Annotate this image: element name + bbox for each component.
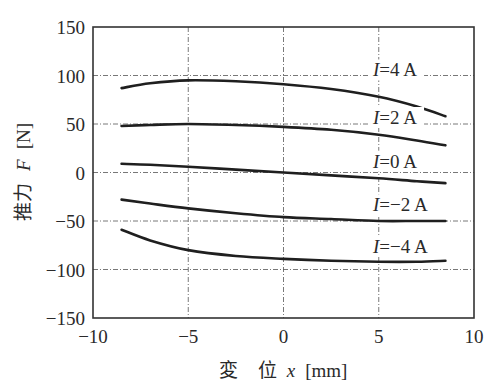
series-label: I=2 A: [372, 107, 417, 128]
force-displacement-chart: I=4 AI=2 AI=0 AI=−2 AI=−4 A 150100500−50…: [0, 0, 497, 388]
x-tick-label: −10: [78, 326, 108, 347]
y-axis-variable: F: [13, 159, 34, 172]
y-tick-label: 0: [76, 163, 86, 184]
y-axis-unit: [N]: [13, 123, 34, 149]
y-tick-label: 150: [57, 17, 86, 38]
x-tick-label: 5: [374, 326, 384, 347]
series-label: I=4 A: [372, 59, 417, 80]
x-axis-ticks: −10−50510: [78, 326, 483, 347]
x-axis-unit: [mm]: [305, 360, 347, 381]
y-tick-label: 50: [66, 114, 85, 135]
y-tick-label: −100: [46, 260, 85, 281]
x-tick-label: −5: [178, 326, 198, 347]
x-axis-title: 変 位 x [mm]: [219, 359, 348, 381]
x-axis-variable: x: [286, 360, 296, 381]
y-axis-title: 推力 F [N]: [12, 123, 34, 221]
x-tick-label: 10: [465, 326, 484, 347]
series-label: I=−2 A: [372, 194, 428, 215]
y-tick-label: −50: [55, 211, 85, 232]
series-label: I=0 A: [372, 151, 417, 172]
x-axis-title-rest: 位: [258, 359, 277, 381]
x-axis-title-main: 変: [219, 359, 238, 381]
x-tick-label: 0: [279, 326, 289, 347]
y-tick-label: 100: [57, 66, 86, 87]
y-axis-title-main: 推力: [12, 183, 34, 221]
series-labels: I=4 AI=2 AI=0 AI=−2 AI=−4 A: [370, 59, 434, 257]
y-axis-ticks: 150100500−50−100−150: [46, 17, 85, 329]
series-label: I=−4 A: [372, 236, 428, 257]
